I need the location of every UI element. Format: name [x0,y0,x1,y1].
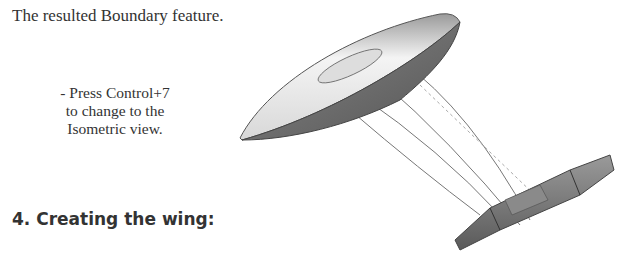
pod-body [455,155,614,250]
fuselage-body [240,14,460,140]
boundary-feature-figure [0,0,620,257]
